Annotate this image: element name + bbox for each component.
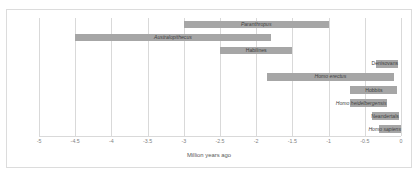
bar-label: Neandertals bbox=[371, 110, 398, 123]
bar-row: Paranthropus bbox=[39, 18, 401, 31]
bar-label: Homo sapiens bbox=[368, 123, 401, 136]
x-tick-label: -3 bbox=[181, 138, 186, 144]
bar-row: Neandertals bbox=[39, 110, 401, 123]
bar-row: Homo sapiens bbox=[39, 123, 401, 136]
x-tick-label: -2.5 bbox=[215, 138, 224, 144]
x-tick-label: -0.5 bbox=[360, 138, 369, 144]
bar-row: Homo heidelbergensis bbox=[39, 97, 401, 110]
bar-row: Australopithecus bbox=[39, 31, 401, 44]
chart-frame: ParanthropusAustralopithecusHabilinesDen… bbox=[6, 9, 412, 168]
x-tick-label: -4 bbox=[109, 138, 114, 144]
x-tick-label: 0 bbox=[400, 138, 403, 144]
plot-area: ParanthropusAustralopithecusHabilinesDen… bbox=[39, 18, 401, 136]
bar-label: Denisovans bbox=[371, 57, 398, 70]
bar-row: Homo erectus bbox=[39, 70, 401, 83]
bar-label: Homo erectus bbox=[315, 70, 347, 83]
bar-label: Hobbits bbox=[365, 84, 382, 97]
bar-label: Paranthropus bbox=[241, 18, 272, 31]
x-tick-label: -3.5 bbox=[143, 138, 152, 144]
bar-row: Habilines bbox=[39, 44, 401, 57]
bar-label: Homo heidelbergensis bbox=[336, 97, 387, 110]
x-axis-baseline bbox=[39, 136, 401, 137]
x-tick-label: -1.5 bbox=[288, 138, 297, 144]
x-tick-label: -4.5 bbox=[71, 138, 80, 144]
bar-label: Habilines bbox=[246, 44, 267, 57]
x-axis-title: Million years ago bbox=[7, 152, 411, 158]
gridline-0 bbox=[401, 18, 402, 136]
bar-label: Australopithecus bbox=[154, 31, 192, 44]
x-tick-label: -2 bbox=[254, 138, 259, 144]
x-tick-label: -1 bbox=[326, 138, 331, 144]
bar-row: Hobbits bbox=[39, 84, 401, 97]
bar-row: Denisovans bbox=[39, 57, 401, 70]
x-tick-label: -5 bbox=[37, 138, 42, 144]
